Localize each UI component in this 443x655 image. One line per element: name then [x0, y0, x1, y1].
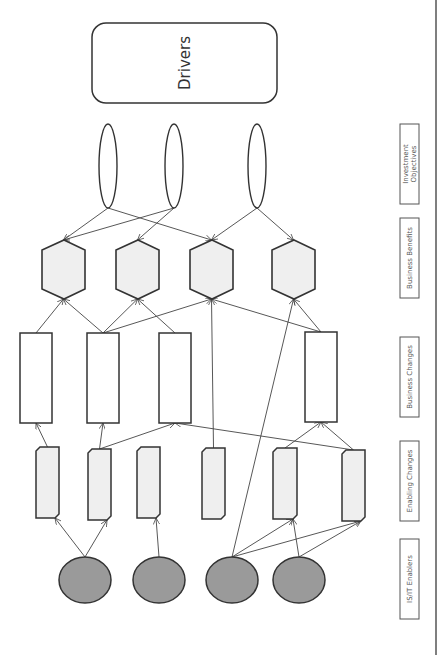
row-label-investment-objectives-line2: Objectives — [410, 145, 418, 182]
investment-objective-2[interactable] — [165, 124, 183, 208]
edge-en1-to-ec2 — [85, 520, 107, 557]
business-benefit-1[interactable] — [42, 240, 85, 299]
row-label-enabling-changes: Enabling Changes — [400, 441, 419, 521]
investment-objective-3[interactable] — [248, 124, 266, 208]
row-label-is-it-enablers: IS/IT Enablers — [400, 539, 419, 619]
edge-en4-to-ec6 — [299, 521, 361, 557]
edge-bc2-to-bb1 — [64, 299, 104, 333]
is-it-enabler-3[interactable] — [206, 557, 258, 603]
row-label-investment-objectives: Investment Objectives — [400, 124, 419, 204]
benefits-dependency-network: Drivers Investment Obj — [0, 0, 443, 655]
edge-io1-to-bb1 — [64, 208, 109, 240]
business-changes-row — [20, 332, 337, 423]
edge-bc3-to-bb2 — [138, 299, 176, 333]
edge-ec2-to-bc2 — [100, 423, 104, 449]
row-label-business-changes: Business Changes — [400, 337, 419, 417]
is-it-enabler-4[interactable] — [273, 557, 325, 603]
row-label-business-changes-text: Business Changes — [406, 345, 414, 409]
drivers-box[interactable]: Drivers — [92, 23, 277, 103]
edge-en1-to-ec1 — [55, 518, 85, 557]
edge-io2-to-bb1 — [64, 208, 175, 240]
enabling-change-2[interactable] — [88, 449, 111, 520]
enabling-change-5[interactable] — [273, 448, 297, 519]
edge-bc4-to-bb3 — [212, 299, 322, 332]
enabling-change-4[interactable] — [202, 448, 225, 519]
enabling-change-3[interactable] — [137, 447, 160, 518]
edge-io3-to-bb3 — [212, 208, 258, 240]
edge-io2-to-bb2 — [138, 208, 175, 240]
business-change-1[interactable] — [20, 333, 52, 423]
edge-bc2-to-bb3 — [103, 299, 212, 333]
row-label-enabling-changes-text: Enabling Changes — [406, 449, 414, 512]
edge-en3-to-ec5 — [232, 519, 293, 557]
row-label-is-it-enablers-text: IS/IT Enablers — [406, 555, 414, 603]
enabling-change-6[interactable] — [342, 450, 365, 521]
business-benefits-row — [42, 240, 315, 299]
business-change-3[interactable] — [159, 333, 191, 423]
is-it-enabler-2[interactable] — [133, 557, 185, 603]
drivers-label: Drivers — [176, 36, 194, 90]
business-change-4[interactable] — [305, 332, 337, 422]
is-it-enabler-1[interactable] — [59, 557, 111, 603]
edge-io1-to-bb3 — [108, 208, 212, 240]
edge-ec4-to-bb3 — [212, 299, 214, 448]
row-label-business-benefits-text: Business Benefits — [406, 227, 414, 289]
enabling-change-1[interactable] — [36, 447, 59, 518]
business-benefit-2[interactable] — [116, 240, 159, 299]
is-it-enablers-row — [59, 557, 325, 603]
edge-en2-to-ec3 — [156, 518, 159, 557]
edge-ec2-to-bc3 — [100, 423, 176, 449]
edge-io3-to-bb4 — [257, 208, 294, 240]
business-benefit-3[interactable] — [190, 240, 233, 299]
edge-bc1-to-bb1 — [36, 299, 64, 333]
investment-objective-1[interactable] — [99, 124, 117, 208]
enabling-changes-row — [36, 447, 365, 521]
business-benefit-4[interactable] — [272, 240, 315, 299]
business-change-2[interactable] — [87, 333, 119, 423]
investment-objectives-row — [99, 124, 266, 208]
row-label-business-benefits: Business Benefits — [400, 218, 419, 298]
row-label-investment-objectives-line1: Investment — [402, 144, 410, 184]
edge-ec1-to-bc1 — [36, 423, 48, 447]
edge-en4-to-ec5 — [293, 519, 299, 557]
edge-bc4-to-bb4 — [294, 299, 322, 332]
